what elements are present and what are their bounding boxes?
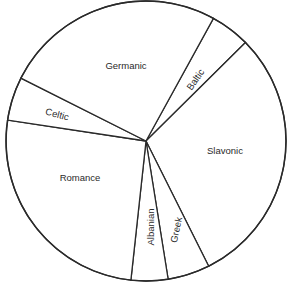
slice-romance (6, 120, 146, 280)
label-germanic: Germanic (105, 60, 146, 71)
label-slavonic: Slavonic (207, 145, 243, 156)
pie-chart: Baltic Slavonic Greek Albanian Romance C… (0, 0, 290, 291)
label-romance: Romance (60, 172, 101, 183)
label-albanian: Albanian (145, 209, 156, 246)
